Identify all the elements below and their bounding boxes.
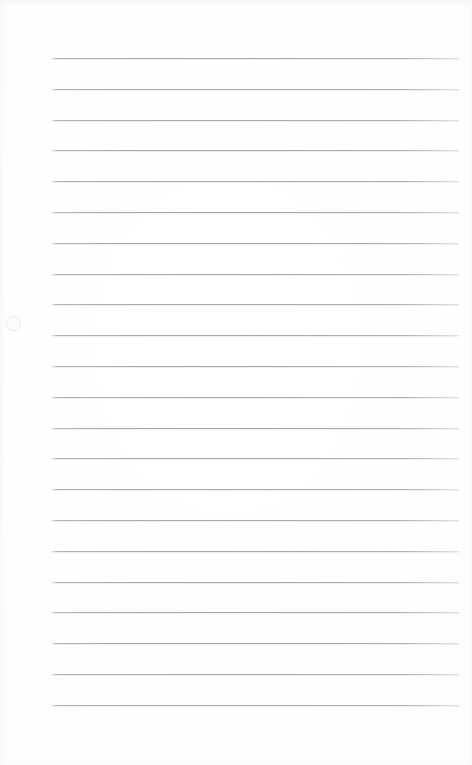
ruled-line [52, 58, 459, 59]
scanned-page [0, 0, 472, 765]
ruled-line [52, 643, 459, 644]
ruled-line [52, 89, 459, 90]
ruled-line [52, 274, 459, 275]
ruled-line [52, 551, 459, 552]
ruled-line [52, 520, 459, 521]
ruled-line [52, 705, 459, 706]
ruled-line [52, 366, 459, 367]
ruled-line [52, 612, 459, 613]
ruled-line [52, 304, 459, 305]
ruled-line [52, 428, 459, 429]
ruled-line [52, 582, 459, 583]
ruled-line [52, 212, 459, 213]
ruled-line [52, 397, 459, 398]
ruled-line [52, 335, 459, 336]
ruled-line-group [0, 0, 472, 765]
ruled-line [52, 243, 459, 244]
ruled-line [52, 674, 459, 675]
ruled-line [52, 181, 459, 182]
ruled-line [52, 489, 459, 490]
ruled-line [52, 150, 459, 151]
ruled-line [52, 458, 459, 459]
ruled-line [52, 120, 459, 121]
